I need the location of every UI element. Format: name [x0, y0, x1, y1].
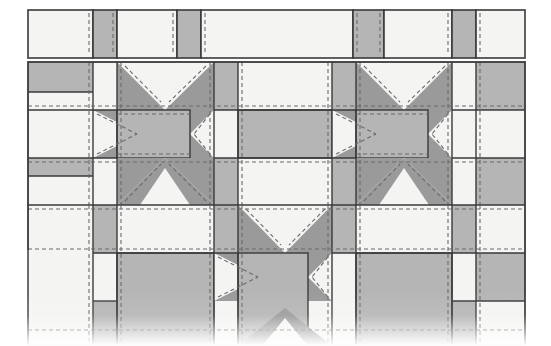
middle-block-row: [28, 62, 525, 205]
star-center-square: [356, 110, 428, 158]
quilt-pattern-diagram: [0, 0, 551, 346]
left-fade-overlay: [0, 250, 34, 346]
sashing-medium: [332, 62, 356, 110]
cornerstone-medium: [353, 10, 384, 58]
patch-light-long: [201, 10, 353, 58]
sashing-medium: [452, 205, 476, 253]
sashing-medium: [28, 62, 93, 92]
patch-light: [476, 10, 525, 58]
patch-light: [28, 10, 93, 58]
sashing-medium: [332, 205, 356, 253]
star-center-square: [117, 110, 190, 158]
top-sashing-strip: [28, 10, 525, 58]
sashing-medium: [214, 62, 238, 110]
sashing-medium: [476, 158, 525, 205]
cornerstone-medium: [177, 10, 201, 58]
quilt-canvas: [0, 0, 551, 346]
cornerstone-medium: [452, 10, 476, 58]
patch-light: [117, 10, 177, 58]
plain-square-block: [238, 110, 332, 158]
sashing-medium: [93, 205, 117, 253]
sashing-medium: [476, 62, 525, 110]
patch-light: [384, 10, 452, 58]
sashing-medium: [214, 158, 238, 205]
sashing-medium: [214, 205, 238, 253]
sashing-medium: [28, 158, 93, 176]
bottom-fade-overlay: [0, 290, 551, 346]
sashing-medium: [332, 158, 356, 205]
